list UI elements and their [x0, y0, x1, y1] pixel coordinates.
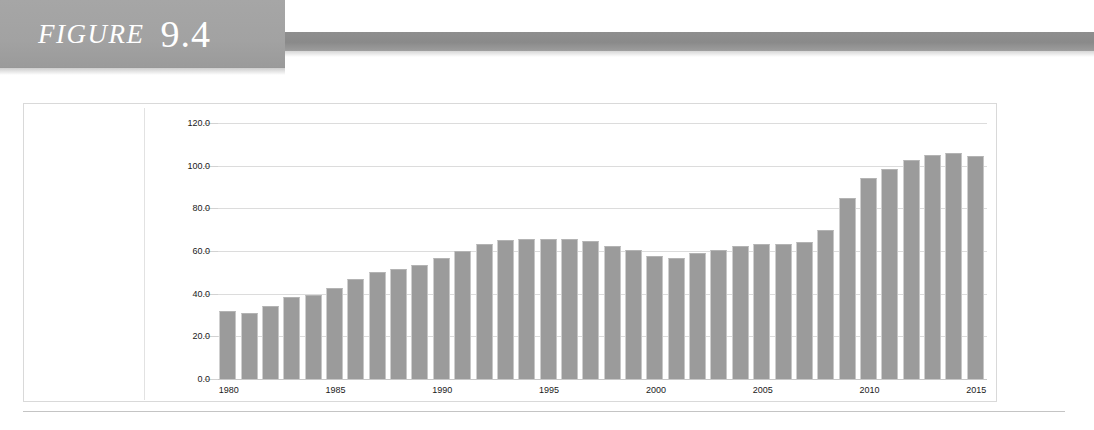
- y-tick-label: 120.0: [187, 118, 210, 128]
- bar-1996: [561, 239, 578, 379]
- bar-1997: [582, 241, 599, 379]
- bar-2012: [903, 160, 920, 379]
- bar-1995: [540, 239, 557, 379]
- bar-1998: [604, 246, 621, 379]
- bar-2009: [839, 198, 856, 379]
- bar-1989: [411, 265, 428, 379]
- bar-1980: [219, 311, 236, 379]
- y-tick-label: 0.0: [197, 374, 210, 384]
- figure-label: FIGURE: [38, 19, 144, 50]
- bar-2010: [860, 178, 877, 379]
- y-tick-label: 40.0: [192, 289, 210, 299]
- bar-1987: [369, 272, 386, 379]
- x-tick-label: 1985: [325, 385, 345, 395]
- bar-2006: [775, 244, 792, 379]
- bar-1993: [497, 240, 514, 379]
- bar-2004: [732, 246, 749, 379]
- bar-1999: [625, 250, 642, 379]
- y-tick-label: 80.0: [192, 203, 210, 213]
- bar-1984: [305, 295, 322, 379]
- bar-2001: [668, 258, 685, 379]
- bar-2015: [967, 156, 984, 379]
- bar-1982: [262, 306, 279, 379]
- figure-frame: 0.020.040.060.080.0100.0120.0 1980198519…: [23, 103, 997, 402]
- y-tick-label: 60.0: [192, 246, 210, 256]
- bar-2011: [881, 169, 898, 379]
- x-tick-label: 1990: [432, 385, 452, 395]
- bar-2007: [796, 242, 813, 379]
- y-tick-label: 20.0: [192, 331, 210, 341]
- gridline-0.0: [218, 379, 987, 380]
- bar-1985: [326, 288, 343, 379]
- bar-2000: [646, 256, 663, 379]
- bar-1983: [283, 297, 300, 379]
- y-tick-label: 100.0: [187, 161, 210, 171]
- x-tick-label: 1995: [539, 385, 559, 395]
- x-tick-label: 2010: [859, 385, 879, 395]
- bar-2005: [753, 244, 770, 379]
- page-bottom-rule: [23, 411, 1065, 412]
- header-rule-bar: [285, 32, 1094, 51]
- bar-1981: [241, 313, 258, 379]
- bar-1994: [518, 239, 535, 379]
- x-tick-label: 2005: [753, 385, 773, 395]
- chart-panel: 0.020.040.060.080.0100.0120.0 1980198519…: [144, 108, 996, 400]
- bar-1986: [347, 279, 364, 379]
- bar-2014: [945, 153, 962, 379]
- x-tick-label: 2015: [966, 385, 986, 395]
- plot-area: 0.020.040.060.080.0100.0120.0 1980198519…: [218, 123, 987, 379]
- bar-series: [218, 123, 987, 379]
- bar-1988: [390, 269, 407, 379]
- x-tick-label: 2000: [646, 385, 666, 395]
- bar-1992: [476, 244, 493, 379]
- x-tick-label: 1980: [219, 385, 239, 395]
- bar-1990: [433, 258, 450, 379]
- bar-2003: [710, 250, 727, 379]
- figure-banner: FIGURE 9.4: [0, 0, 285, 68]
- bar-2013: [924, 155, 941, 379]
- bar-1991: [454, 251, 471, 379]
- bar-2002: [689, 253, 706, 379]
- bar-2008: [817, 230, 834, 379]
- figure-number: 9.4: [160, 12, 211, 56]
